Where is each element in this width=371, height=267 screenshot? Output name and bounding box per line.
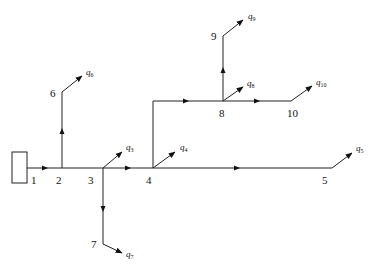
- outflow-q4-arrow-icon: [153, 152, 175, 168]
- node-label-2: 2: [56, 174, 62, 186]
- flow-arrows: [42, 67, 260, 212]
- outflow-label-q6: q6: [86, 67, 94, 78]
- node-label-9: 9: [211, 30, 217, 42]
- outflow-label-q10: q10: [316, 77, 327, 88]
- outflow-label-q9: q9: [248, 11, 256, 22]
- node-label-6: 6: [50, 87, 56, 99]
- pipe-4-8: [153, 101, 223, 168]
- outflow-label-q3: q3: [126, 142, 134, 153]
- node-label-8: 8: [219, 107, 225, 119]
- flow-arrow-icon: [234, 166, 240, 171]
- node-label-10: 10: [287, 107, 299, 119]
- node-label-7: 7: [91, 238, 97, 250]
- flow-arrow-icon: [254, 99, 260, 104]
- flow-arrow-icon: [221, 67, 226, 73]
- outflow-arrows: [62, 20, 352, 253]
- source-reservoir: [12, 152, 27, 183]
- outflow-label-q7: q7: [126, 249, 134, 260]
- outflow-label-q5: q5: [356, 143, 364, 154]
- node-label-5: 5: [322, 174, 328, 186]
- outflow-label-q4: q4: [180, 142, 188, 153]
- flow-arrow-icon: [60, 128, 65, 134]
- node-labels: q6q3q4q5q7q8q9q1012345678910: [31, 11, 364, 260]
- outflow-q5-arrow-icon: [332, 153, 352, 168]
- outflow-q9-arrow-icon: [223, 20, 243, 36]
- flow-arrow-icon: [101, 206, 106, 212]
- outflow-q10-arrow-icon: [291, 86, 312, 101]
- outflow-q3-arrow-icon: [103, 152, 122, 168]
- flow-arrow-icon: [183, 99, 189, 104]
- flow-arrow-icon: [125, 166, 131, 171]
- node-label-3: 3: [88, 174, 94, 186]
- pipe-network-diagram: q6q3q4q5q7q8q9q1012345678910: [0, 0, 371, 267]
- flow-arrow-icon: [42, 166, 48, 171]
- source-box: [12, 152, 27, 183]
- outflow-q7-arrow-icon: [103, 244, 122, 253]
- outflow-label-q8: q8: [247, 78, 255, 89]
- node-label-4: 4: [146, 174, 152, 186]
- pipes: [27, 36, 332, 244]
- outflow-q8-arrow-icon: [223, 87, 243, 101]
- node-label-1: 1: [31, 174, 37, 186]
- outflow-q6-arrow-icon: [62, 76, 82, 92]
